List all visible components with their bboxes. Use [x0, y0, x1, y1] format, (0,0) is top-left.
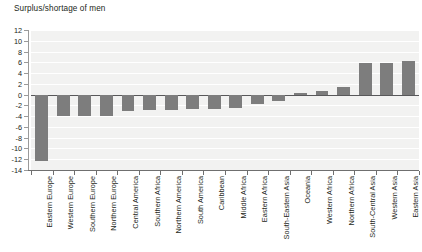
y-axis-tick-label: -12 [0, 155, 22, 164]
bar [57, 95, 70, 117]
x-axis-tick-label: Northern Europe [109, 176, 118, 231]
x-axis-tick-label: Eastern Asia [411, 176, 420, 218]
y-axis-tick-label: 2 [0, 79, 22, 88]
y-axis-tick [24, 105, 28, 106]
bar [251, 95, 264, 104]
x-axis-tick-label: South-Central Asia [368, 176, 377, 238]
y-axis-tick [24, 170, 28, 171]
y-axis-line [28, 30, 29, 170]
bar [186, 95, 199, 110]
x-axis-tick [419, 171, 420, 175]
x-axis-tick-label: South-Eastern Asia [282, 176, 291, 239]
y-axis-tick-label: 12 [0, 26, 22, 35]
x-axis-tick-label: Western Africa [325, 176, 334, 224]
y-axis-tick [24, 30, 28, 31]
x-axis-labels: Eastern EuropeWestern EuropeSouthern Eur… [31, 176, 419, 250]
bar [359, 63, 372, 94]
x-axis-tick [225, 171, 226, 175]
x-axis-tick-label: Western Europe [66, 176, 75, 229]
x-axis-tick-label: Middle Africa [239, 176, 248, 218]
x-axis-tick [139, 171, 140, 175]
bar [229, 95, 242, 108]
bar [122, 95, 135, 111]
bar [380, 63, 393, 95]
y-axis-tick-label: -6 [0, 122, 22, 131]
bar [165, 95, 178, 110]
x-axis-tick [96, 171, 97, 175]
x-axis-tick [31, 171, 32, 175]
chart-title: Surplus/shortage of men [14, 4, 106, 13]
y-axis-tick [24, 127, 28, 128]
bar-series [31, 30, 419, 170]
bar [208, 95, 221, 109]
x-axis-tick-label: Eastern Europe [45, 176, 54, 227]
y-axis-tick [24, 138, 28, 139]
x-axis-tick [397, 171, 398, 175]
y-axis-tick-label: -8 [0, 133, 22, 142]
y-axis-tick-label: -2 [0, 101, 22, 110]
y-axis-tick [24, 41, 28, 42]
x-axis-tick [376, 171, 377, 175]
y-axis-tick-label: 6 [0, 58, 22, 67]
x-axis-tick [247, 171, 248, 175]
y-axis-tick [24, 62, 28, 63]
bar [35, 95, 48, 161]
y-axis-tick [24, 84, 28, 85]
x-axis-tick-label: Southern Europe [88, 176, 97, 232]
bar [402, 61, 415, 94]
y-axis-tick [24, 95, 28, 96]
bar [316, 91, 329, 95]
x-axis-tick-label: Central America [131, 176, 140, 229]
x-axis-tick [290, 171, 291, 175]
x-axis-tick [311, 171, 312, 175]
x-axis-line [28, 170, 419, 171]
y-axis-tick [24, 52, 28, 53]
bar [143, 95, 156, 111]
bar [337, 87, 350, 95]
x-axis-tick-label: Western Asia [390, 176, 399, 219]
x-axis-tick-label: Northern America [174, 176, 183, 234]
y-axis-tick [24, 148, 28, 149]
x-axis-tick-label: Southern Africa [153, 176, 162, 227]
y-axis-tick-label: 0 [0, 90, 22, 99]
x-axis-tick [354, 171, 355, 175]
x-axis-tick-label: South America [196, 176, 205, 224]
chart-root: Surplus/shortage of men 121086420-2-4-6-… [0, 0, 422, 252]
y-axis-tick-label: -10 [0, 144, 22, 153]
y-axis-tick-label: 8 [0, 47, 22, 56]
x-axis-tick-label: Northern Africa [347, 176, 356, 225]
y-axis-tick [24, 73, 28, 74]
x-axis-tick [160, 171, 161, 175]
y-axis-labels: 121086420-2-4-6-8-10-12-14 [0, 30, 22, 170]
x-axis-tick-label: Oceania [303, 176, 312, 204]
y-axis-tick [24, 116, 28, 117]
y-axis-tick-label: -4 [0, 112, 22, 121]
bar [294, 93, 307, 95]
x-axis-tick [182, 171, 183, 175]
x-axis-tick [268, 171, 269, 175]
x-axis-tick-label: Caribbean [217, 176, 226, 210]
x-axis-tick [53, 171, 54, 175]
bar [272, 95, 285, 101]
x-axis-tick [117, 171, 118, 175]
x-axis-tick [74, 171, 75, 175]
y-axis-tick-label: -14 [0, 166, 22, 175]
y-axis-tick [24, 159, 28, 160]
bar [100, 95, 113, 116]
bar [78, 95, 91, 116]
y-axis-tick-label: 4 [0, 69, 22, 78]
x-axis-tick-label: Eastern Africa [260, 176, 269, 222]
y-axis-tick-label: 10 [0, 36, 22, 45]
x-axis-tick [333, 171, 334, 175]
x-axis-tick [203, 171, 204, 175]
